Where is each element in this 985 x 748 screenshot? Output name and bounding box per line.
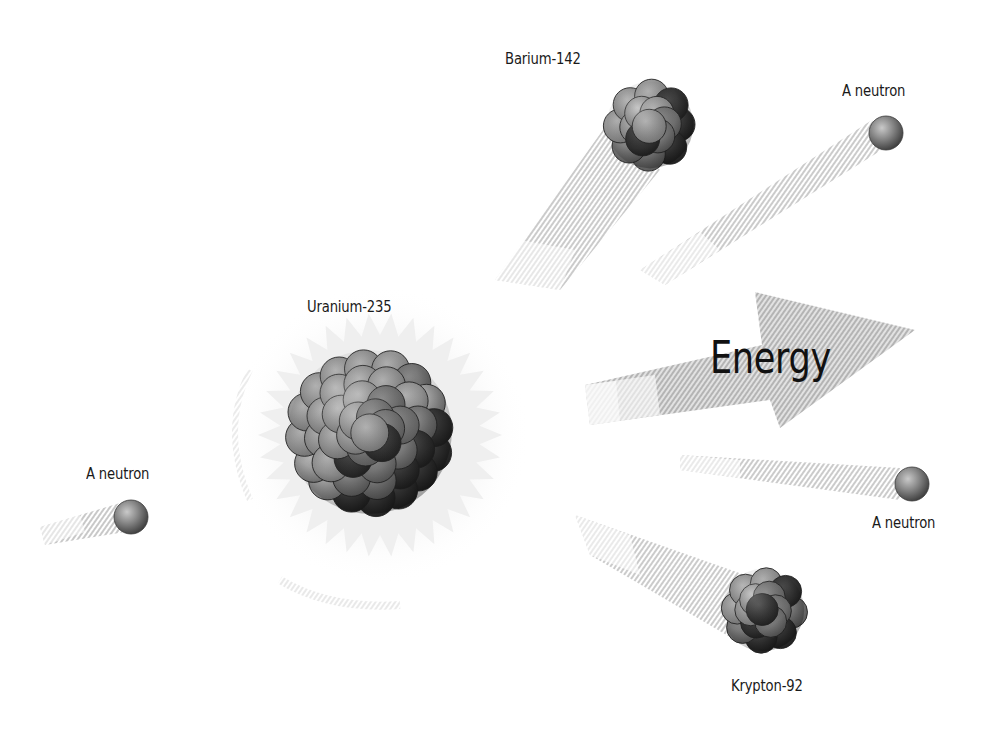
label-krypton-92: Krypton-92 xyxy=(731,677,803,695)
trail-krypton xyxy=(575,515,745,640)
neutron-mid-right[interactable] xyxy=(895,467,929,501)
nucleon xyxy=(351,414,389,452)
fission-diagram xyxy=(0,0,985,748)
trail-incoming-neutron xyxy=(40,503,125,545)
nucleus-barium-142[interactable] xyxy=(603,79,695,171)
label-neutron-mid-right: A neutron xyxy=(872,514,935,532)
neutron-top-right[interactable] xyxy=(869,116,903,150)
label-energy: Energy xyxy=(710,332,831,383)
nucleon xyxy=(632,109,666,143)
label-uranium-235: Uranium-235 xyxy=(307,298,391,316)
trail-neutron-mid-right xyxy=(680,455,900,500)
neutron-incoming[interactable] xyxy=(114,500,148,534)
label-barium-142: Barium-142 xyxy=(505,50,581,68)
label-neutron-top-right: A neutron xyxy=(842,82,905,100)
nucleon xyxy=(746,594,778,626)
nucleus-krypton-92[interactable] xyxy=(721,568,807,653)
label-neutron-incoming: A neutron xyxy=(86,465,149,483)
